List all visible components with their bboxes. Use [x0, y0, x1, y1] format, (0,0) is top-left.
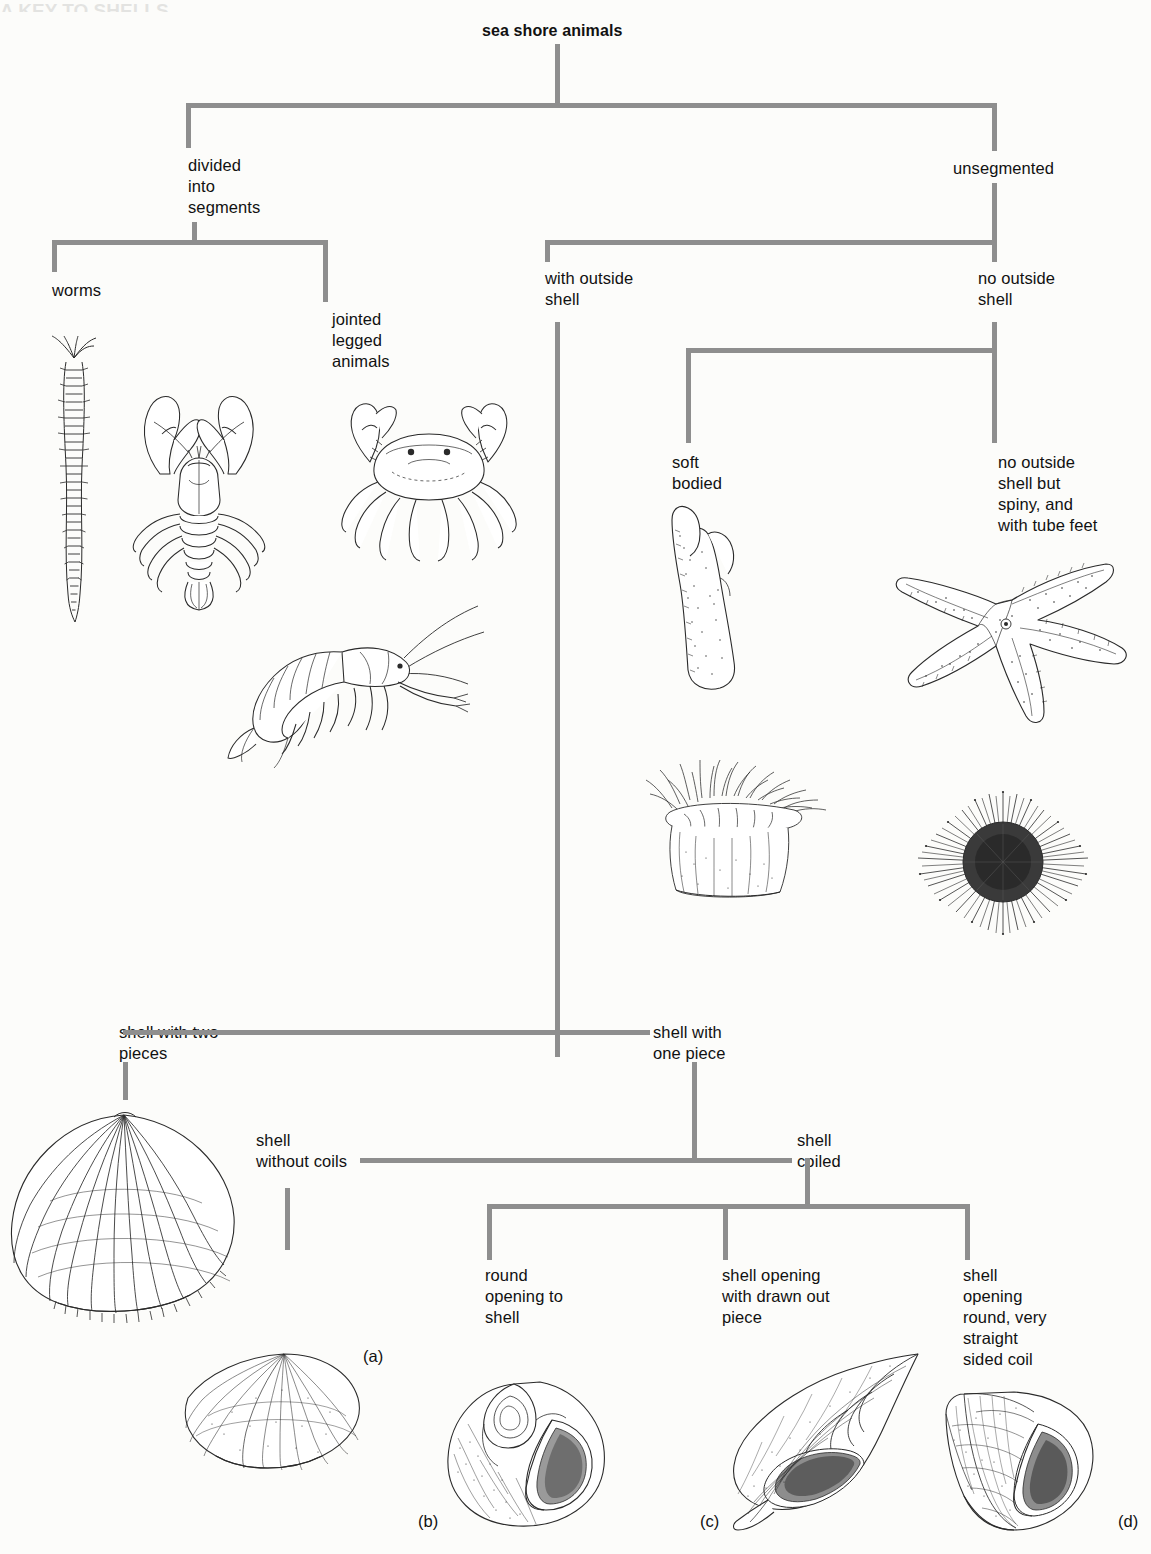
connector-spiny-drop: [992, 348, 997, 443]
connector-segmented-bar: [52, 240, 328, 245]
connector-unsegmented-stem: [992, 183, 997, 245]
figure-label-c: (c): [700, 1512, 719, 1531]
connector-level1-right-drop: [992, 103, 997, 151]
figure-label-d: (d): [1118, 1512, 1138, 1531]
node-label-round-opening-to-shell: round opening to shell: [485, 1265, 563, 1328]
node-label-shell-coiled: shell coiled: [797, 1130, 841, 1172]
node-label-jointed-legged-animals: jointed legged animals: [332, 309, 390, 372]
sea-squirt-illustration: [650, 500, 770, 700]
prawn-illustration: [192, 596, 492, 796]
root-label: sea shore animals: [482, 20, 622, 41]
sea-anemone-illustration: [628, 752, 858, 902]
crab-illustration: [312, 390, 547, 575]
cropped-header-text: A KEY TO SHELLS: [0, 0, 260, 12]
connector-without-coils-drop: [285, 1188, 290, 1250]
dichotomous-key-diagram: A KEY TO SHELLS sea shore animals divide…: [0, 0, 1151, 1554]
connector-root-stem: [555, 44, 560, 106]
connector-level1-left-drop: [186, 103, 191, 148]
limpet-shell-illustration: [172, 1340, 372, 1490]
connector-no-shell-drop: [992, 240, 997, 262]
sea-urchin-illustration: [898, 782, 1108, 942]
connector-soft-bodied-drop: [686, 348, 691, 443]
connector-one-piece-stem: [692, 1062, 697, 1162]
topshell-illustration: [930, 1378, 1110, 1538]
connector-shell-split-bar: [123, 1030, 650, 1035]
connector-coils-split-bar: [360, 1158, 792, 1163]
node-label-spiny-tube-feet: no outside shell but spiny, and with tub…: [998, 452, 1098, 536]
node-label-no-outside-shell: no outside shell: [978, 268, 1055, 310]
connector-coiled-three-way-bar: [487, 1204, 970, 1209]
node-label-unsegmented: unsegmented: [953, 158, 1054, 179]
node-label-straight-sided-coil: shell opening round, very straight sided…: [963, 1265, 1047, 1370]
node-label-worms: worms: [52, 280, 101, 301]
connector-straight-coil-drop: [965, 1204, 970, 1260]
node-label-shell-without-coils: shell without coils: [256, 1130, 347, 1172]
connector-unsegmented-bar: [545, 240, 997, 245]
node-label-soft-bodied: soft bodied: [672, 452, 722, 494]
node-label-divided-into-segments: divided into segments: [188, 155, 260, 218]
node-label-with-outside-shell: with outside shell: [545, 268, 633, 310]
connector-worms-drop: [52, 240, 57, 272]
connector-round-opening-drop: [487, 1204, 492, 1260]
connector-drawn-out-drop: [723, 1204, 728, 1260]
connector-no-shell-bar: [686, 348, 997, 353]
starfish-illustration: [860, 552, 1150, 742]
lobster-illustration: [118, 382, 318, 622]
periwinkle-shell-illustration: [440, 1368, 620, 1533]
connector-level1-bar: [186, 103, 997, 108]
node-label-drawn-out-piece: shell opening with drawn out piece: [722, 1265, 830, 1328]
whelk-shell-illustration: [722, 1348, 937, 1538]
connector-jointed-drop: [323, 240, 328, 302]
connector-with-shell-drop: [545, 240, 550, 262]
connector-two-pieces-drop: [123, 1062, 128, 1100]
ragworm-illustration: [44, 336, 104, 626]
node-label-shell-with-one-piece: shell with one piece: [653, 1022, 725, 1064]
connector-coiled-stem: [805, 1158, 810, 1208]
connector-with-shell-trunk: [555, 322, 560, 1057]
cockle-shell-illustration: [4, 1105, 264, 1330]
node-label-shell-with-two-pieces: shell with two pieces: [119, 1022, 219, 1064]
figure-label-b: (b): [418, 1512, 438, 1531]
